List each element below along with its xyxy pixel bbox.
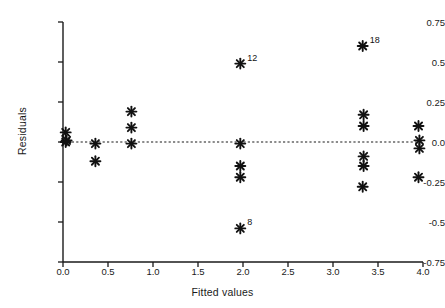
y-tick-label: 0.75	[399, 17, 445, 28]
x-tick-label: 4.0	[403, 266, 443, 277]
residuals-vs-fitted-scatter-plot: Residuals Fitted values 0.750.50.250.0-0…	[0, 0, 445, 308]
x-tick-label: 2.0	[223, 266, 263, 277]
data-point-marker	[359, 110, 369, 120]
y-axis-title: Residuals	[16, 86, 28, 176]
data-point-marker	[235, 59, 245, 69]
y-tick-label: -0.5	[399, 217, 445, 228]
data-point-marker	[90, 156, 100, 166]
y-tick-label: 0.0	[399, 137, 445, 148]
y-tick-label: -0.25	[399, 177, 445, 188]
data-markers-group	[61, 41, 425, 233]
x-tick-label: 1.5	[178, 266, 218, 277]
data-point-marker	[235, 161, 245, 171]
data-point-marker	[126, 139, 136, 149]
x-tick-label: 3.5	[358, 266, 398, 277]
data-point-marker	[126, 107, 136, 117]
x-tick-label: 3.0	[313, 266, 353, 277]
data-point-marker	[61, 137, 71, 147]
data-point-marker	[358, 182, 368, 192]
data-point-marker	[359, 161, 369, 171]
x-tick-label: 2.5	[268, 266, 308, 277]
data-point-marker	[235, 172, 245, 182]
x-tick-label: 1.0	[133, 266, 173, 277]
y-tick-label: 0.25	[399, 97, 445, 108]
x-tick-label: 0.5	[88, 266, 128, 277]
point-annotation-label: 8	[247, 217, 252, 227]
x-tick-label: 0.0	[43, 266, 83, 277]
data-point-marker	[358, 41, 368, 51]
data-point-marker	[90, 139, 100, 149]
point-annotation-label: 18	[370, 35, 380, 45]
data-point-marker	[235, 139, 245, 149]
data-point-marker	[359, 121, 369, 131]
data-point-marker	[235, 223, 245, 233]
data-point-marker	[126, 123, 136, 133]
data-point-marker	[359, 151, 369, 161]
plot-canvas	[0, 0, 445, 308]
data-point-marker	[414, 121, 424, 131]
point-annotation-label: 12	[247, 53, 257, 63]
y-tick-label: 0.5	[399, 57, 445, 68]
x-axis-title: Fitted values	[0, 286, 445, 298]
